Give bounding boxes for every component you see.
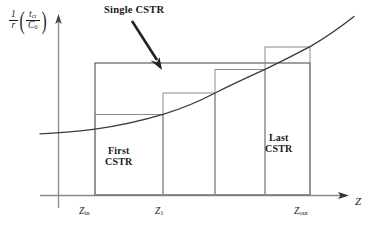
y-axis-outer-denominator: r (10, 21, 18, 31)
paren-close-icon: ) (41, 8, 46, 33)
y-axis-outer-fraction: 1 r (9, 10, 18, 31)
y-axis-inner-denominator: C0 (26, 21, 39, 31)
x-tick-z1-sub: 1 (160, 209, 163, 216)
rate-curve-group (40, 17, 354, 134)
x-tick-label-z1: Z1 (155, 206, 164, 217)
y-axis-label: 1 r ( tcr C0 ) (9, 6, 48, 34)
c-subscript: 0 (34, 23, 37, 30)
y-axis-inner-numerator: tcr (27, 10, 38, 20)
annotation-arrow-shaft (132, 21, 157, 60)
first-cstr-label-line2: CSTR (105, 157, 132, 168)
diagram-canvas (0, 0, 376, 236)
x-tick-label-zin: Zin (79, 206, 90, 217)
last-cstr-label-line2: CSTR (265, 144, 292, 155)
single-cstr-annotation: Single CSTR (104, 4, 164, 15)
t-subscript: cr (32, 12, 37, 19)
x-axis-label: Z (355, 196, 361, 208)
single-cstr-rectangle (95, 63, 310, 195)
cstr-rect-2 (163, 93, 215, 195)
x-tick-label-zout: Zout (294, 206, 308, 217)
cstr-staircase-diagram: 1 r ( tcr C0 ) Single CSTR First CSTR La… (0, 0, 376, 236)
y-axis-outer-numerator: 1 (9, 10, 18, 20)
single-cstr-box (95, 63, 310, 195)
paren-open-icon: ( (19, 8, 24, 33)
cstr-rect-4 (265, 47, 310, 195)
x-tick-zout-sub: out (299, 209, 308, 216)
x-tick-zin-sub: in (84, 209, 89, 216)
cstr-rect-3 (215, 70, 265, 196)
y-axis-inner-fraction: tcr C0 (26, 10, 39, 31)
staircase-rectangles (95, 47, 310, 195)
axes-group (40, 14, 349, 208)
rate-curve (40, 17, 354, 134)
first-cstr-label: First CSTR (105, 146, 132, 168)
last-cstr-label: Last CSTR (265, 133, 292, 155)
